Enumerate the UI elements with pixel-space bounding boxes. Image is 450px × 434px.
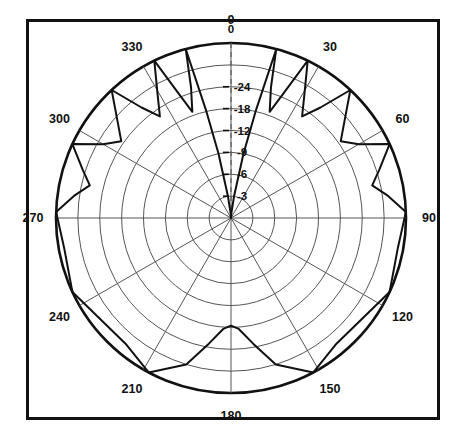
radial-tick-neg3: -3 xyxy=(237,190,247,202)
angular-tick-150: 150 xyxy=(320,382,341,396)
radial-tick-neg18: -18 xyxy=(234,103,251,115)
angular-tick-120: 120 xyxy=(392,310,413,324)
angular-tick-180: 180 xyxy=(221,409,242,423)
radial-tick-neg9: -9 xyxy=(237,146,247,158)
radial-tick-0: 0 xyxy=(228,23,234,35)
angular-tick-240: 240 xyxy=(49,310,70,324)
angular-tick-300: 300 xyxy=(49,112,70,126)
angular-tick-210: 210 xyxy=(122,382,143,396)
angular-tick-60: 60 xyxy=(396,112,410,126)
polar-chart xyxy=(0,0,450,434)
radial-tick-neg6: -6 xyxy=(237,168,247,180)
angular-tick-30: 30 xyxy=(323,40,337,54)
angular-tick-90: 90 xyxy=(422,211,436,225)
angular-tick-270: 270 xyxy=(23,211,44,225)
angular-tick-330: 330 xyxy=(122,40,143,54)
radial-tick-neg12: -12 xyxy=(234,125,251,137)
radial-tick-neg24: -24 xyxy=(234,81,251,93)
